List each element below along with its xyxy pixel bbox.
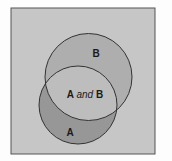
label-a: A — [66, 127, 73, 138]
label-ab-b: B — [96, 89, 103, 100]
venn-diagram: B A A and B — [0, 0, 172, 161]
label-b: B — [92, 48, 99, 59]
label-a-and-b: A and B — [67, 89, 103, 100]
label-ab-and: and — [76, 89, 93, 100]
label-ab-a: A — [67, 89, 74, 100]
